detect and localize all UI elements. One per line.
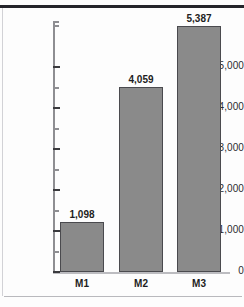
x-axis-label-m1: M1: [60, 278, 104, 289]
y-tick-minor-1500: [53, 210, 59, 212]
y-tick-2000: [53, 189, 60, 191]
bar-value-m3: 5,387: [177, 13, 221, 24]
y-axis-line: [53, 21, 55, 273]
y-tick-5500: [53, 25, 59, 27]
bar-m3[interactable]: [177, 26, 221, 272]
bar-m2[interactable]: [119, 87, 163, 272]
y-tick-3000: [53, 148, 60, 150]
x-axis-label-m2: M2: [119, 278, 163, 289]
x-axis-label-m3: M3: [177, 278, 221, 289]
y-tick-0: [53, 271, 60, 273]
y-tick-minor-500: [53, 251, 59, 253]
y-tick-5000: [53, 66, 60, 68]
y-tick-4000: [53, 107, 60, 109]
bar-m1[interactable]: [60, 222, 104, 272]
y-tick-minor-4500: [53, 87, 59, 89]
y-tick-minor-3500: [53, 128, 59, 130]
y-tick-1000: [53, 230, 60, 232]
bar-value-m2: 4,059: [119, 74, 163, 85]
y-tick-minor-2500: [53, 169, 59, 171]
bar-chart-plot-area: 5,000 4,000 3,000 2,000 1,000 0 1,098 4,…: [0, 0, 244, 307]
y-axis-top-cap: [53, 21, 59, 23]
chart-page: 5,000 4,000 3,000 2,000 1,000 0 1,098 4,…: [0, 0, 244, 307]
bar-value-m1: 1,098: [60, 209, 104, 220]
